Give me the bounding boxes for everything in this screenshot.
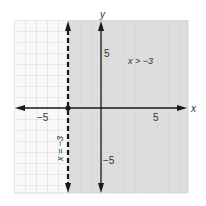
- x-axis-label: x: [190, 103, 197, 114]
- y-tick-neg5: −5: [103, 155, 115, 166]
- inequality-graph: y x −5 5 5 −5 x > −3 x = −3: [0, 0, 206, 206]
- y-axis-label: y: [99, 9, 106, 20]
- y-tick-pos5: 5: [104, 48, 110, 59]
- region-label: x > −3: [127, 56, 153, 66]
- x-tick-pos5: 5: [153, 112, 159, 123]
- x-tick-neg5: −5: [37, 112, 49, 123]
- boundary-point: [65, 105, 70, 110]
- boundary-label: x = −3: [55, 136, 65, 162]
